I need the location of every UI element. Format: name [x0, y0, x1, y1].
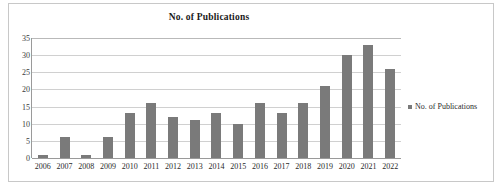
bar-slot — [119, 38, 141, 158]
x-axis-tick-label: 2019 — [317, 162, 333, 171]
x-axis-tick-label: 2008 — [78, 162, 94, 171]
x-axis-tick-label: 2017 — [274, 162, 290, 171]
bar[interactable] — [146, 103, 156, 158]
x-axis-tick-label: 2018 — [295, 162, 311, 171]
x-axis-tick-label: 2020 — [339, 162, 355, 171]
bar[interactable] — [190, 120, 200, 158]
bar-slot — [292, 38, 314, 158]
x-axis-tick-label: 2011 — [144, 162, 160, 171]
chart-title: No. of Publications — [9, 12, 409, 22]
bar[interactable] — [342, 55, 352, 158]
y-axis-tick-label: 25 — [14, 68, 30, 77]
bar-slot — [358, 38, 380, 158]
chart-container: No. of Publications 05101520253035 20062… — [8, 3, 494, 182]
legend-label: No. of Publications — [415, 102, 477, 111]
x-axis-tick-label: 2012 — [165, 162, 181, 171]
chart-legend: No. of Publications — [408, 102, 477, 111]
y-axis-tick-label: 35 — [14, 34, 30, 43]
y-axis-tick-label: 30 — [14, 51, 30, 60]
bar-slot — [336, 38, 358, 158]
bar[interactable] — [125, 113, 135, 158]
bar[interactable] — [277, 113, 287, 158]
x-axis-tick-label: 2007 — [57, 162, 73, 171]
bar-series — [32, 38, 401, 158]
bar-slot — [97, 38, 119, 158]
bar[interactable] — [320, 86, 330, 158]
bar-slot — [314, 38, 336, 158]
bar-slot — [249, 38, 271, 158]
x-axis-tick-label: 2009 — [100, 162, 116, 171]
bar[interactable] — [60, 137, 70, 158]
bar[interactable] — [81, 155, 91, 158]
y-axis-tick-label: 0 — [14, 154, 30, 163]
bar-slot — [162, 38, 184, 158]
y-axis-tick-labels: 05101520253035 — [13, 38, 30, 158]
bar-slot — [54, 38, 76, 158]
x-axis-line — [32, 158, 401, 159]
y-axis-tick-label: 10 — [14, 119, 30, 128]
x-axis-tick-label: 2016 — [252, 162, 268, 171]
bar[interactable] — [38, 155, 48, 158]
bar-slot — [32, 38, 54, 158]
bar[interactable] — [211, 113, 221, 158]
bar-slot — [271, 38, 293, 158]
bar-slot — [379, 38, 401, 158]
y-axis-tick-label: 20 — [14, 85, 30, 94]
x-axis-tick-label: 2015 — [230, 162, 246, 171]
x-axis-tick-label: 2010 — [122, 162, 138, 171]
x-axis-tick-label: 2006 — [35, 162, 51, 171]
bar-slot — [184, 38, 206, 158]
bar-slot — [75, 38, 97, 158]
x-axis-tick-label: 2022 — [382, 162, 398, 171]
bar[interactable] — [363, 45, 373, 158]
bar[interactable] — [298, 103, 308, 158]
bar[interactable] — [103, 137, 113, 158]
y-axis-tick-label: 5 — [14, 136, 30, 145]
bar-slot — [141, 38, 163, 158]
bar[interactable] — [255, 103, 265, 158]
bar-slot — [227, 38, 249, 158]
bar[interactable] — [233, 124, 243, 158]
x-axis-tick-labels: 2006200720082009201020112012201320142015… — [32, 162, 401, 176]
x-axis-tick-label: 2014 — [209, 162, 225, 171]
bar[interactable] — [385, 69, 395, 158]
x-axis-tick-label: 2013 — [187, 162, 203, 171]
bar[interactable] — [168, 117, 178, 158]
bar-slot — [206, 38, 228, 158]
plot-area — [32, 38, 401, 158]
x-axis-tick-label: 2021 — [360, 162, 376, 171]
legend-square-marker — [408, 105, 412, 109]
y-axis-tick-label: 15 — [14, 102, 30, 111]
